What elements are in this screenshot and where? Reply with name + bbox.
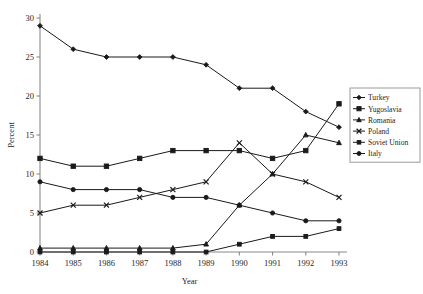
data-point xyxy=(337,219,341,223)
data-point xyxy=(304,148,308,152)
data-point xyxy=(204,195,208,199)
legend-label: Italy xyxy=(368,149,382,158)
data-point xyxy=(71,246,76,250)
data-point xyxy=(270,211,274,215)
data-point xyxy=(138,250,142,254)
x-tick-label: 1986 xyxy=(98,258,115,268)
data-point xyxy=(104,188,108,192)
x-tick-label: 1987 xyxy=(131,258,148,268)
data-point xyxy=(357,140,361,144)
data-point xyxy=(304,235,308,239)
chart-canvas: 051015202530 198419851986198719881989199… xyxy=(0,0,423,294)
legend-label: Romania xyxy=(368,116,396,125)
data-point xyxy=(337,102,341,106)
data-point xyxy=(270,156,274,160)
y-tick-label: 30 xyxy=(26,13,35,23)
x-tick-label: 1990 xyxy=(231,258,248,268)
data-point xyxy=(337,227,341,231)
data-point xyxy=(104,55,109,60)
data-point xyxy=(171,250,175,254)
data-point xyxy=(170,55,175,60)
data-point xyxy=(204,250,208,254)
data-point xyxy=(170,246,175,250)
y-tick-label: 20 xyxy=(26,91,35,101)
data-point xyxy=(171,195,175,199)
data-point xyxy=(271,235,275,239)
series-layer xyxy=(38,23,342,254)
data-point xyxy=(38,246,43,250)
series-poland xyxy=(38,140,342,215)
data-point xyxy=(237,203,241,207)
chart-legend: TurkeyYugoslaviaRomaniaPolandSoviet Unio… xyxy=(350,88,420,162)
legend-label: Poland xyxy=(368,127,389,136)
y-axis-title: Percent xyxy=(6,122,16,148)
x-tick-label: 1989 xyxy=(198,258,215,268)
x-tick-label: 1984 xyxy=(32,258,50,268)
data-point xyxy=(237,242,241,246)
data-point xyxy=(357,107,361,111)
x-tick-label: 1992 xyxy=(297,258,314,268)
series-yugoslavia xyxy=(38,102,341,169)
data-point xyxy=(71,250,75,254)
data-point xyxy=(137,55,142,60)
data-point xyxy=(104,246,109,250)
data-point xyxy=(71,188,75,192)
data-point xyxy=(104,164,108,168)
data-point xyxy=(38,250,42,254)
y-tick-label: 10 xyxy=(26,169,35,179)
y-tick-label: 0 xyxy=(30,247,34,257)
data-point xyxy=(138,188,142,192)
y-tick-label: 15 xyxy=(26,130,35,140)
series-soviet-union xyxy=(38,227,341,254)
legend-label: Soviet Union xyxy=(368,138,408,147)
data-point xyxy=(337,125,342,130)
y-tick-label: 25 xyxy=(26,52,35,62)
x-tick-label: 1985 xyxy=(65,258,82,268)
x-axis-title: Year xyxy=(182,276,198,286)
data-point xyxy=(171,148,175,152)
data-point xyxy=(304,219,308,223)
data-point xyxy=(137,246,142,250)
data-point xyxy=(71,164,75,168)
data-point xyxy=(38,156,42,160)
data-point xyxy=(237,148,241,152)
data-point xyxy=(105,250,109,254)
data-point xyxy=(357,152,361,156)
x-tick-label: 1993 xyxy=(331,258,348,268)
legend-label: Turkey xyxy=(368,93,390,102)
series-romania xyxy=(38,132,342,250)
data-point xyxy=(204,148,208,152)
data-point xyxy=(38,180,42,184)
x-tick-label: 1991 xyxy=(264,258,281,268)
series-turkey xyxy=(38,23,342,129)
data-point xyxy=(303,132,308,136)
x-axis: 1984198519861987198819891990199119921993 xyxy=(32,252,348,268)
legend-label: Yugoslavia xyxy=(368,105,402,114)
y-tick-label: 5 xyxy=(30,208,34,218)
data-point xyxy=(137,156,141,160)
line-chart: 051015202530 198419851986198719881989199… xyxy=(0,0,423,294)
data-point xyxy=(337,140,342,144)
y-axis: 051015202530 xyxy=(26,13,41,257)
x-tick-label: 1988 xyxy=(164,258,181,268)
